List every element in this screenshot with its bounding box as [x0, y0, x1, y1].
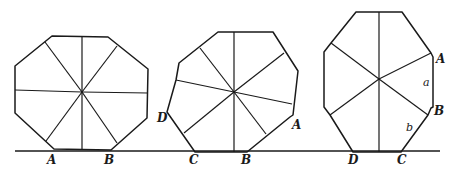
- elongated-octagon: AaBbDC: [324, 12, 445, 167]
- radial-spoke: [82, 92, 117, 143]
- vertex-label: A: [46, 153, 56, 167]
- radial-spoke: [15, 90, 82, 92]
- radial-spoke: [330, 79, 379, 115]
- vertex-label: C: [397, 153, 407, 167]
- vertex-label: D: [347, 153, 359, 167]
- vertex-label: b: [406, 121, 413, 134]
- vertex-label: D: [156, 111, 168, 125]
- radial-spoke: [234, 92, 266, 134]
- radial-spoke: [234, 53, 284, 92]
- vertex-label: A: [291, 118, 301, 132]
- radial-spoke: [45, 42, 82, 92]
- radial-spoke: [82, 46, 117, 92]
- vertex-label: B: [103, 153, 114, 167]
- vertex-label: a: [423, 76, 430, 89]
- radial-spoke: [176, 80, 234, 92]
- radial-spoke: [379, 79, 428, 115]
- vertex-label: B: [433, 104, 444, 118]
- vertex-label: C: [189, 153, 199, 167]
- radial-spoke: [82, 92, 148, 93]
- vertex-label: B: [240, 153, 251, 167]
- radial-spoke: [184, 92, 234, 133]
- octagon-rolling-diagram: ABDACBAaBbDC: [0, 0, 458, 175]
- radial-spoke: [46, 92, 82, 141]
- radial-spoke: [331, 43, 379, 79]
- vertex-label: A: [435, 52, 445, 66]
- regular-octagon: AB: [15, 36, 148, 167]
- radial-spoke: [234, 92, 292, 104]
- irregular-octagon-tilted: DACB: [156, 32, 301, 167]
- radial-spoke: [200, 48, 234, 92]
